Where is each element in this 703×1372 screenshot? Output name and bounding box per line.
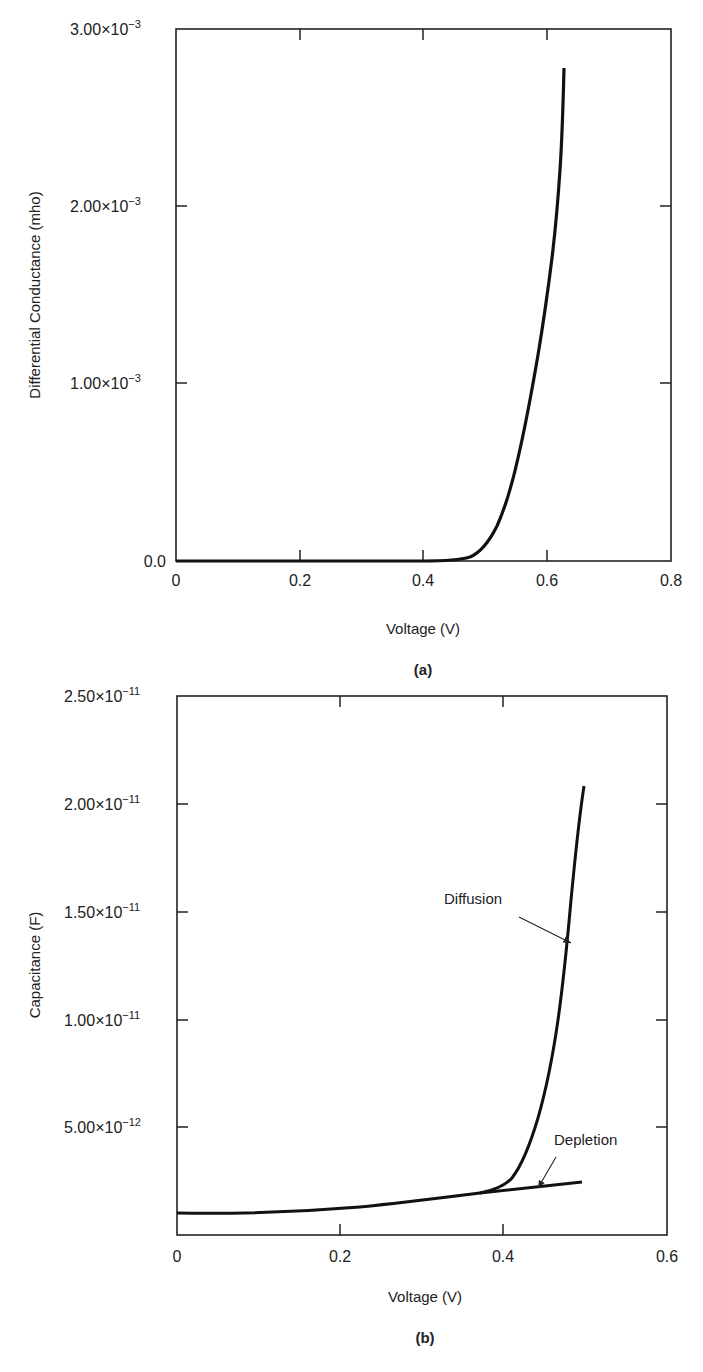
figure: 0.0 1.00×10−3 2.00×10−3 3.00×10−3 0 0.2 … (0, 0, 703, 1372)
depletion-curve (177, 1182, 582, 1213)
chart-a: 0.0 1.00×10−3 2.00×10−3 3.00×10−3 0 0.2 … (26, 18, 682, 678)
svg-text:1.50×10−11: 1.50×10−11 (64, 901, 140, 921)
y-tick-label-a-2: 2.00×10−3 (70, 195, 141, 215)
y-ticks-a (176, 29, 671, 561)
svg-text:2.00×10−11: 2.00×10−11 (64, 793, 140, 813)
x-tick-label-a-0: 0 (172, 572, 181, 589)
y-tick-label-b-1: 1.00×10−11 (64, 1009, 140, 1029)
chart-b: 5.00×10−12 1.00×10−11 1.50×10−11 2.00×10… (26, 685, 678, 1346)
svg-text:2.50×10−11: 2.50×10−11 (64, 685, 140, 705)
y-tick-label-b-2: 1.50×10−11 (64, 901, 140, 921)
y-tick-label-a-1: 1.00×10−3 (70, 372, 141, 392)
conductance-curve (176, 68, 564, 561)
svg-text:1.00×10−11: 1.00×10−11 (64, 1009, 140, 1029)
x-tick-label-b-0: 0 (173, 1248, 182, 1265)
svg-text:1.00×10−3: 1.00×10−3 (70, 372, 141, 392)
y-axis-title-b: Capacitance (F) (26, 912, 43, 1019)
x-tick-label-a-1: 0.2 (289, 572, 311, 589)
plot-frame-b (177, 696, 667, 1235)
diffusion-label: Diffusion (444, 890, 502, 907)
x-axis-title-b: Voltage (V) (388, 1288, 462, 1305)
x-tick-label-a-3: 0.6 (536, 572, 558, 589)
svg-text:5.00×10−12: 5.00×10−12 (64, 1116, 141, 1136)
panel-caption-b: (b) (415, 1329, 434, 1346)
y-tick-label-b-0: 5.00×10−12 (64, 1116, 141, 1136)
y-tick-label-b-3: 2.00×10−11 (64, 793, 140, 813)
svg-text:2.00×10−3: 2.00×10−3 (70, 195, 141, 215)
x-axis-title-a: Voltage (V) (386, 620, 460, 637)
x-tick-label-b-2: 0.4 (492, 1248, 514, 1265)
ticks-b (177, 696, 667, 1235)
depletion-label: Depletion (554, 1131, 617, 1148)
y-axis-title-a: Differential Conductance (mho) (26, 191, 43, 398)
x-tick-label-a-2: 0.4 (412, 572, 434, 589)
svg-text:3.00×10−3: 3.00×10−3 (70, 18, 141, 38)
depletion-arrow (538, 1157, 556, 1188)
y-tick-label-b-4: 2.50×10−11 (64, 685, 140, 705)
x-tick-label-a-4: 0.8 (660, 572, 682, 589)
panel-caption-a: (a) (414, 661, 432, 678)
diffusion-arrow (519, 917, 571, 943)
plot-frame-a (176, 29, 671, 561)
y-tick-label-a-3: 3.00×10−3 (70, 18, 141, 38)
x-tick-label-b-1: 0.2 (329, 1248, 351, 1265)
y-tick-label-a-0: 0.0 (144, 553, 166, 570)
x-tick-label-b-3: 0.6 (656, 1248, 678, 1265)
